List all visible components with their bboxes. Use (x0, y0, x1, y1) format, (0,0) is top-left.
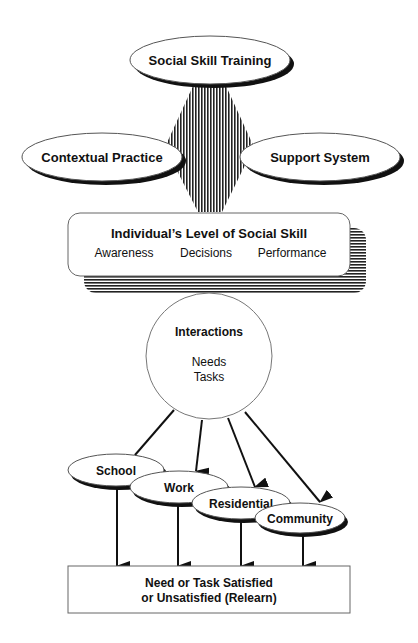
circle-item-needs: Needs (192, 355, 227, 369)
component-awareness: Awareness (94, 246, 153, 260)
node-individual-level: Individual’s Level of Social Skill Aware… (68, 213, 366, 293)
node-contextual-practice: Contextual Practice (22, 133, 186, 185)
node-label: Community (267, 512, 333, 526)
outcome-line-1: Need or Task Satisfied (145, 576, 273, 590)
social-skill-diagram: Social Skill Training Contextual Practic… (0, 0, 418, 643)
arrow-to-residential (228, 418, 255, 487)
box-shape (68, 213, 350, 276)
circle-title: Interactions (175, 325, 243, 339)
node-social-skill-training: Social Skill Training (130, 36, 294, 88)
node-outcome: Need or Task Satisfied or Unsatisfied (R… (68, 566, 350, 613)
node-label: Contextual Practice (41, 150, 162, 165)
arrow-to-school (135, 410, 174, 455)
component-decisions: Decisions (180, 246, 232, 260)
node-interactions: Interactions Needs Tasks (146, 293, 272, 419)
component-performance: Performance (258, 246, 327, 260)
outcome-line-2: or Unsatisfied (Relearn) (141, 591, 276, 605)
circle-item-tasks: Tasks (194, 370, 225, 384)
node-label: School (96, 464, 136, 478)
node-label: Support System (270, 150, 370, 165)
node-community: Community (255, 503, 348, 537)
box-title: Individual’s Level of Social Skill (111, 226, 307, 241)
arrow-to-work (196, 420, 202, 471)
node-label: Work (164, 481, 194, 495)
node-label: Social Skill Training (149, 53, 272, 68)
node-support-system: Support System (240, 133, 404, 185)
